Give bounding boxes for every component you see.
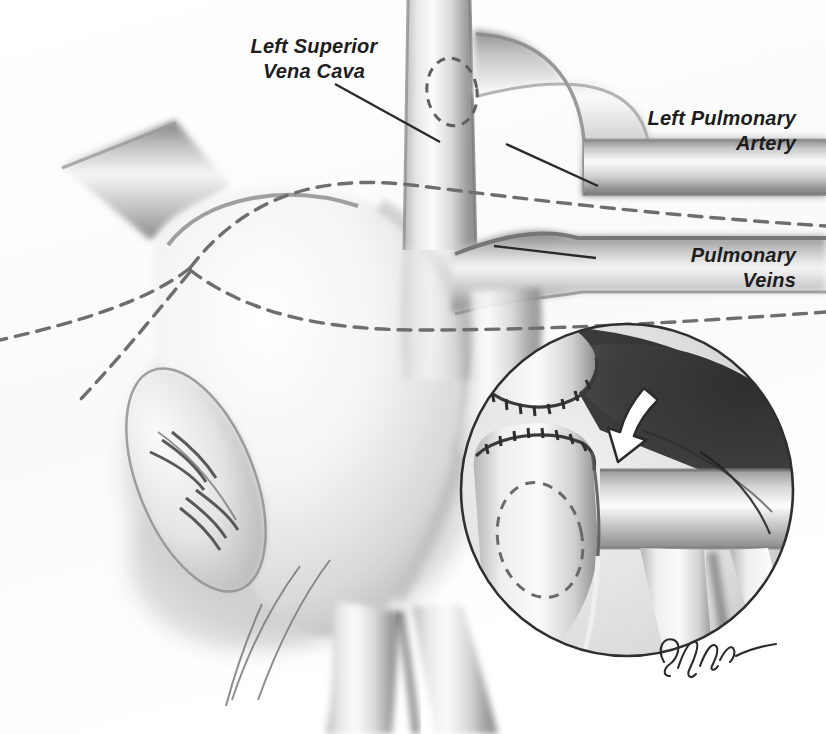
left-superior-vena-cava [404, 0, 476, 250]
label-left-superior-vena-cava: Left Superior Vena Cava [214, 34, 414, 84]
medical-illustration-figure: Left Superior Vena Cava Left Pulmonary A… [0, 0, 826, 734]
bifurcation-left-branch [326, 600, 400, 734]
inset-crossing-vessel [600, 470, 810, 548]
label-left-pulmonary-artery: Left Pulmonary Artery [600, 106, 796, 156]
label-pulmonary-veins: Pulmonary Veins [600, 243, 796, 293]
